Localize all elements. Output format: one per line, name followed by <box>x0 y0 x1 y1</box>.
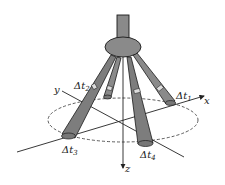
leg-4-label: Δt4 <box>139 149 156 162</box>
top-stem <box>117 15 129 39</box>
x-axis-label: x <box>204 95 210 106</box>
x-axis <box>17 96 204 152</box>
leg-1-label: Δt1 <box>175 90 192 103</box>
leg-3-label: Δt3 <box>61 144 78 157</box>
central-hub <box>105 37 141 57</box>
z-axis-label: z <box>124 163 131 174</box>
leg-2-label: Δt2 <box>73 80 90 93</box>
diagram-canvas: x y z Δt1 Δt2 Δt3 Δt4 <box>0 0 225 185</box>
y-axis-label: y <box>53 84 60 95</box>
hub-legs-diagram: x y z Δt1 Δt2 Δt3 Δt4 <box>0 0 225 185</box>
